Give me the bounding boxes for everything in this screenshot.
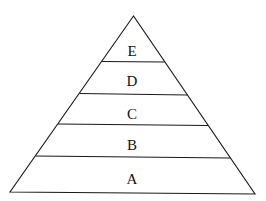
level-label-a: A: [127, 171, 138, 187]
divider-e-d: [102, 62, 165, 63]
level-label-c: C: [127, 106, 137, 122]
pyramid-diagram: E D C B A: [0, 0, 266, 201]
level-label-b: B: [127, 137, 137, 153]
level-label-e: E: [127, 43, 136, 59]
level-label-d: D: [127, 73, 138, 89]
